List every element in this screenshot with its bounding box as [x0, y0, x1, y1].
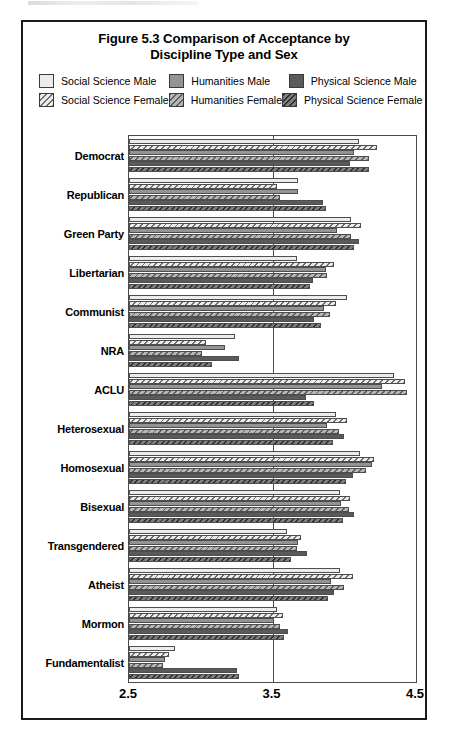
category-label: ACLU	[94, 384, 124, 396]
legend-item-humanities-male: Humanities Male	[169, 74, 289, 88]
bar	[129, 245, 354, 250]
bar	[129, 652, 169, 657]
bar-group	[129, 256, 416, 288]
bar	[129, 340, 206, 345]
bar	[129, 613, 283, 618]
legend-label-physical-science-male: Physical Science Male	[311, 75, 417, 87]
bar-group	[129, 607, 416, 639]
category-label: NRA	[101, 345, 124, 357]
x-tick-label: 2.5	[119, 686, 137, 701]
bar	[129, 557, 291, 562]
bar	[129, 150, 354, 155]
bar	[129, 434, 344, 439]
x-axis-tick-labels: 2.53.54.5	[128, 686, 417, 708]
bar	[129, 473, 353, 478]
bar	[129, 139, 359, 144]
legend-label-physical-science-female: Physical Science Female	[304, 94, 422, 106]
bar	[129, 451, 360, 456]
bar-group	[129, 217, 416, 249]
bar	[129, 362, 212, 367]
bar	[129, 551, 307, 556]
category-label: Transgendered	[48, 540, 124, 552]
bar	[129, 239, 359, 244]
bar	[129, 161, 350, 166]
legend-label-humanities-female: Humanities Female	[191, 94, 282, 106]
bar	[129, 373, 394, 378]
legend-label-social-science-male: Social Science Male	[61, 75, 156, 87]
bar	[129, 468, 366, 473]
legend-item-humanities-female: Humanities Female	[169, 93, 282, 107]
bar	[129, 278, 313, 283]
bar	[129, 546, 297, 551]
category-label: Homosexual	[61, 462, 124, 474]
bar	[129, 596, 328, 601]
legend-swatch-social-science-male	[39, 74, 54, 88]
bar	[129, 423, 327, 428]
bar	[129, 390, 407, 395]
bar	[129, 351, 202, 356]
legend-item-physical-science-female: Physical Science Female	[282, 93, 422, 107]
bar	[129, 429, 339, 434]
bar	[129, 507, 349, 512]
bar-group	[129, 178, 416, 210]
bar	[129, 579, 331, 584]
bar	[129, 323, 321, 328]
bar	[129, 228, 337, 233]
figure-title: Figure 5.3 Comparison of Acceptance by D…	[37, 31, 411, 62]
bar	[129, 624, 280, 629]
bar-group	[129, 451, 416, 483]
legend-swatch-social-science-female	[39, 93, 54, 107]
bar	[129, 234, 351, 239]
bar-group	[129, 139, 416, 171]
category-label: Communist	[65, 306, 124, 318]
legend-label-humanities-male: Humanities Male	[191, 75, 270, 87]
legend-row-female: Social Science Female Humanities Female …	[29, 90, 419, 109]
bar	[129, 479, 346, 484]
legend-item-social-science-male: Social Science Male	[29, 74, 169, 88]
bar-group	[129, 295, 416, 327]
bar	[129, 167, 369, 172]
legend-swatch-humanities-female	[169, 93, 184, 107]
bar	[129, 663, 163, 668]
bar	[129, 345, 225, 350]
bar	[129, 674, 239, 679]
bar	[129, 217, 351, 222]
figure-title-line-2: Discipline Type and Sex	[37, 47, 411, 63]
category-label: Green Party	[64, 228, 124, 240]
bar	[129, 501, 341, 506]
bar	[129, 184, 277, 189]
bar	[129, 301, 336, 306]
bar-group	[129, 373, 416, 405]
category-label: Democrat	[75, 150, 124, 162]
figure-title-line-1: Figure 5.3 Comparison of Acceptance by	[37, 31, 411, 47]
bar	[129, 412, 336, 417]
bar	[129, 440, 333, 445]
bar	[129, 512, 354, 517]
bar	[129, 401, 314, 406]
bar	[129, 607, 277, 612]
bar	[129, 256, 297, 261]
category-label: Libertarian	[69, 267, 124, 279]
bar	[129, 156, 369, 161]
bar	[129, 356, 239, 361]
category-label: Fundamentalist	[46, 657, 125, 669]
legend-row-male: Social Science Male Humanities Male Phys…	[29, 71, 419, 90]
bar	[129, 668, 237, 673]
bar	[129, 635, 284, 640]
legend-swatch-humanities-male	[169, 74, 184, 88]
x-tick-label: 4.5	[406, 686, 424, 701]
figure-page: Figure 5.3 Comparison of Acceptance by D…	[0, 0, 449, 740]
x-tick-label: 3.5	[262, 686, 280, 701]
bar	[129, 178, 298, 183]
legend-swatch-physical-science-female	[282, 93, 297, 107]
category-label: Heterosexual	[57, 423, 124, 435]
bar	[129, 195, 280, 200]
bar	[129, 206, 326, 211]
bar-group	[129, 334, 416, 366]
figure-container: Figure 5.3 Comparison of Acceptance by D…	[21, 20, 427, 720]
bar-group	[129, 412, 416, 444]
bar	[129, 384, 382, 389]
plot-area	[128, 135, 417, 683]
bar	[129, 223, 361, 228]
bar	[129, 295, 347, 300]
